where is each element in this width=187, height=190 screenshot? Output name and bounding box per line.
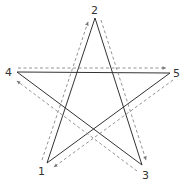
vertex-label-1: 1: [38, 165, 45, 178]
edge-3-4: [17, 72, 142, 165]
edge-1-2: [47, 18, 95, 163]
vertex-label-5: 5: [173, 67, 180, 80]
vertex-label-3: 3: [142, 169, 149, 182]
star-outline: [17, 18, 170, 165]
pentagram-diagram: 1 2 3 4 5: [0, 0, 187, 190]
stroke-order-arrows: [17, 20, 173, 171]
vertex-labels: 1 2 3 4 5: [5, 4, 180, 182]
arrow-5-to-1: [54, 80, 173, 167]
arrow-1-to-2: [42, 22, 88, 160]
edge-2-3: [95, 18, 142, 165]
edge-4-5: [17, 72, 170, 73]
vertex-label-4: 4: [5, 66, 12, 79]
vertex-label-2: 2: [91, 4, 98, 17]
